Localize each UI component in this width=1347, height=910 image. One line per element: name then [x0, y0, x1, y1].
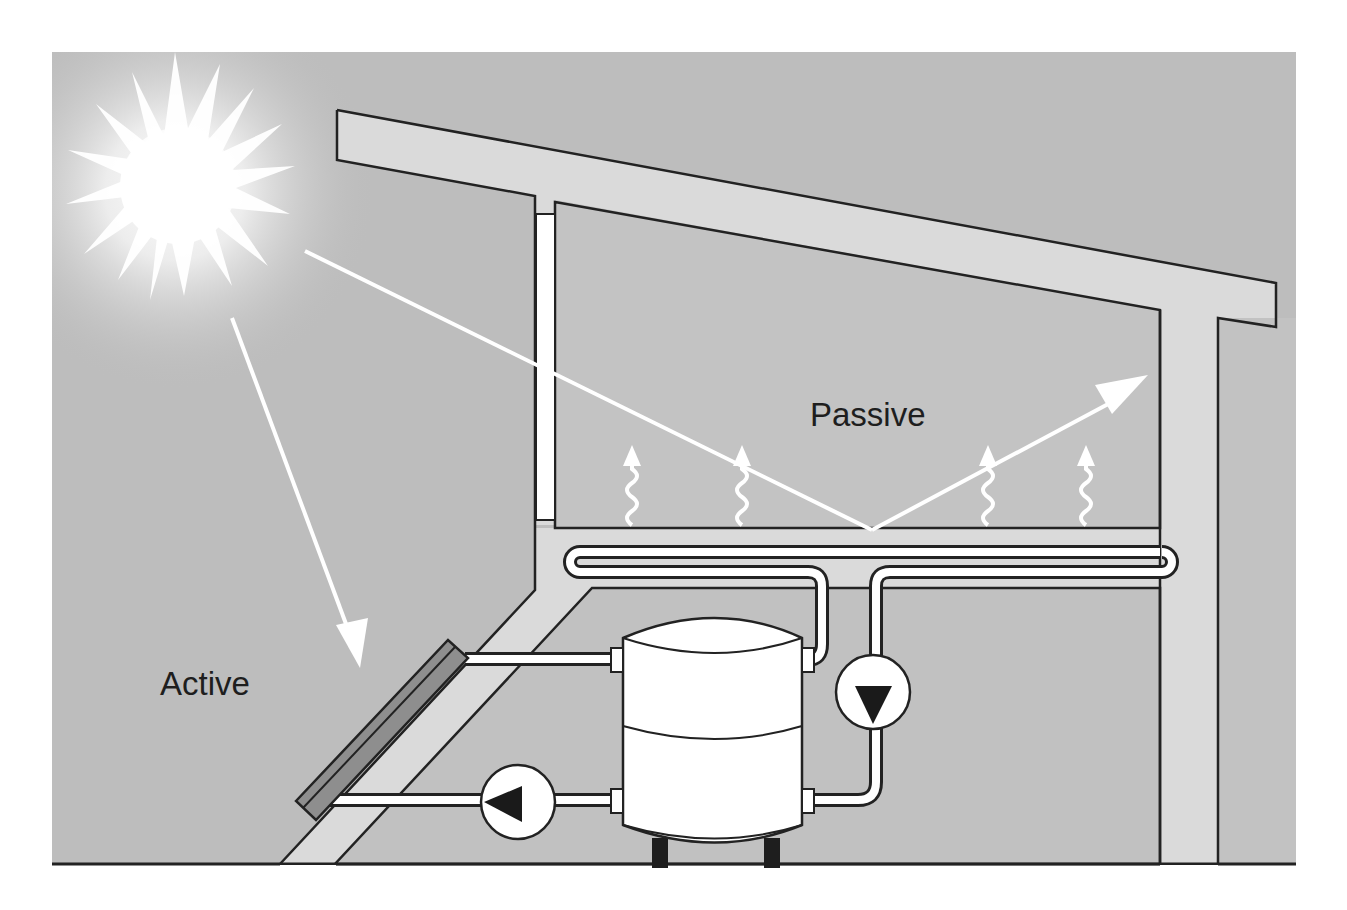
- solar-heating-diagram: Passive Active: [0, 0, 1347, 910]
- floor-circuit-pump: [836, 655, 910, 729]
- active-label: Active: [160, 667, 250, 700]
- storage-tank: [611, 618, 814, 868]
- collector-circuit-pump: [481, 765, 555, 839]
- passive-label: Passive: [810, 398, 926, 431]
